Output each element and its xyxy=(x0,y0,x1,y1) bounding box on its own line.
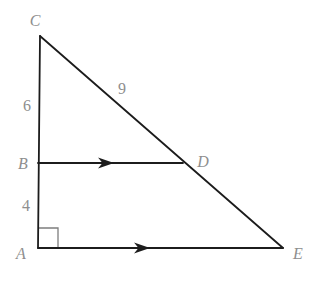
label-D: D xyxy=(196,153,209,170)
label-4: 4 xyxy=(22,197,30,214)
label-9: 9 xyxy=(118,80,126,97)
label-E: E xyxy=(292,245,303,262)
label-C: C xyxy=(30,12,41,29)
label-A: A xyxy=(15,245,26,262)
geometry-diagram: C69BD4AE xyxy=(0,0,316,281)
label-6: 6 xyxy=(23,97,31,114)
label-B: B xyxy=(18,155,28,172)
triangle-figure: C69BD4AE xyxy=(0,0,316,281)
